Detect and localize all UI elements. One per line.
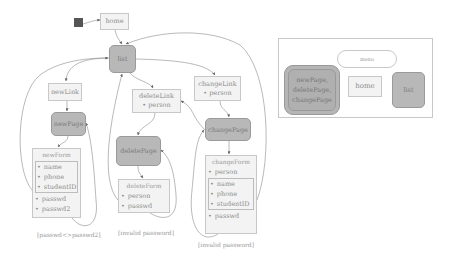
form-changeForm: changeForm person name phone studentID p… bbox=[205, 155, 257, 234]
legend-box: menu newPage, deletePage, changePage hom… bbox=[278, 38, 433, 118]
field-passwd2: passwd2 bbox=[35, 204, 78, 214]
guard-changeForm: [invalid password] bbox=[198, 241, 254, 248]
state-newLink-label: newLink bbox=[51, 88, 79, 97]
state-newPage: newPage bbox=[51, 112, 86, 136]
form-title: deleteForm bbox=[121, 181, 167, 191]
field-studentID: studentID bbox=[210, 199, 252, 209]
field-phone: phone bbox=[37, 172, 76, 182]
state-deletePage: deletePage bbox=[116, 136, 161, 166]
field-passwd: passwd bbox=[208, 211, 254, 221]
legend-menu: menu bbox=[337, 50, 397, 68]
field-name: name bbox=[210, 179, 252, 189]
field-phone: phone bbox=[210, 189, 252, 199]
state-deleteLink: deleteLink • person bbox=[132, 89, 181, 113]
state-deleteLink-label: deleteLink bbox=[139, 92, 174, 101]
form-title: newForm bbox=[35, 150, 78, 160]
field-person: person bbox=[121, 191, 167, 201]
state-deleteLink-param: • person bbox=[142, 101, 170, 110]
state-list: list bbox=[109, 45, 136, 73]
state-list-label: list bbox=[117, 55, 127, 63]
legend-home: home bbox=[348, 76, 382, 97]
state-deletePage-label: deletePage bbox=[120, 147, 156, 155]
state-changeLink: changeLink • person bbox=[194, 76, 241, 101]
form-newForm: newForm name phone studentID passwd pass… bbox=[32, 148, 81, 218]
legend-list: list bbox=[392, 72, 425, 108]
param-person: person bbox=[209, 89, 232, 97]
legend-list-label: list bbox=[403, 86, 413, 94]
form-deleteForm: deleteForm person passwd bbox=[118, 179, 170, 213]
legend-page-group-inner: newPage, deletePage, changePage bbox=[288, 69, 336, 111]
legend-group-line-3: changePage bbox=[292, 95, 332, 105]
field-passwd: passwd bbox=[35, 194, 78, 204]
field-group: name phone studentID bbox=[35, 161, 78, 193]
form-title: changeForm bbox=[208, 157, 254, 167]
legend-home-label: home bbox=[355, 82, 375, 91]
legend-group-line-2: deletePage, bbox=[292, 85, 332, 95]
field-studentID: studentID bbox=[37, 182, 76, 192]
field-group: name phone studentID bbox=[208, 178, 254, 210]
state-changeLink-param: • person bbox=[203, 89, 231, 98]
field-name: name bbox=[37, 162, 76, 172]
state-changePage-label: changePage bbox=[208, 126, 248, 134]
legend-menu-label: menu bbox=[360, 56, 374, 62]
state-home-label: home bbox=[105, 17, 123, 26]
param-person: person bbox=[148, 101, 171, 109]
legend-group-line-1: newPage, bbox=[292, 75, 332, 85]
field-person: person bbox=[208, 167, 254, 177]
guard-newForm: [passwd<>passwd2] bbox=[37, 231, 101, 238]
state-newPage-label: newPage bbox=[54, 120, 84, 128]
state-home: home bbox=[100, 13, 129, 30]
state-changeLink-label: changeLink bbox=[198, 80, 236, 89]
legend-page-group: newPage, deletePage, changePage bbox=[284, 65, 340, 115]
field-passwd: passwd bbox=[121, 201, 167, 211]
guard-deleteForm: [invalid password] bbox=[118, 229, 174, 236]
state-changePage: changePage bbox=[205, 118, 251, 141]
initial-state-marker bbox=[74, 18, 83, 27]
state-newLink: newLink bbox=[48, 83, 82, 101]
